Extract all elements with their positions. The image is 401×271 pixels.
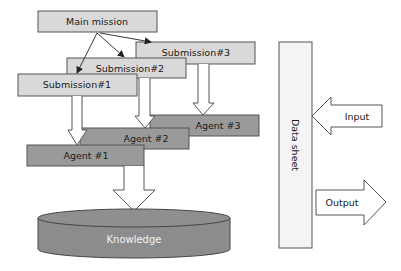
data-sheet-box: Data sheet (279, 42, 312, 248)
arrow-agents-to-knowledge (113, 166, 155, 211)
input-label: Input (345, 111, 370, 122)
data-sheet-label: Data sheet (290, 119, 301, 171)
main-mission-box: Main mission (38, 11, 157, 32)
output-arrow: Output (316, 180, 386, 225)
main-mission-label: Main mission (66, 16, 128, 27)
knowledge-database: Knowledge (38, 209, 230, 258)
knowledge-label: Knowledge (107, 234, 162, 245)
submission-1-box: Submission#1 (18, 74, 137, 96)
agent-1-label: Agent #1 (63, 150, 108, 161)
submission-3-label: Submission#3 (162, 47, 230, 58)
agent-2-label: Agent #2 (123, 133, 168, 144)
mission-diagram: Agent #3 Agent #2 Agent #1 Submission#3 … (0, 0, 401, 271)
submission-1-label: Submission#1 (43, 79, 111, 90)
agent-1-box: Agent #1 (27, 145, 144, 166)
input-arrow: Input (312, 97, 382, 135)
arrow-submission3-to-agent3 (193, 64, 214, 115)
output-label: Output (326, 197, 359, 208)
submission-2-label: Submission#2 (96, 63, 164, 74)
agent-3-label: Agent #3 (195, 120, 240, 131)
arrow-main-to-submission3 (100, 33, 151, 42)
